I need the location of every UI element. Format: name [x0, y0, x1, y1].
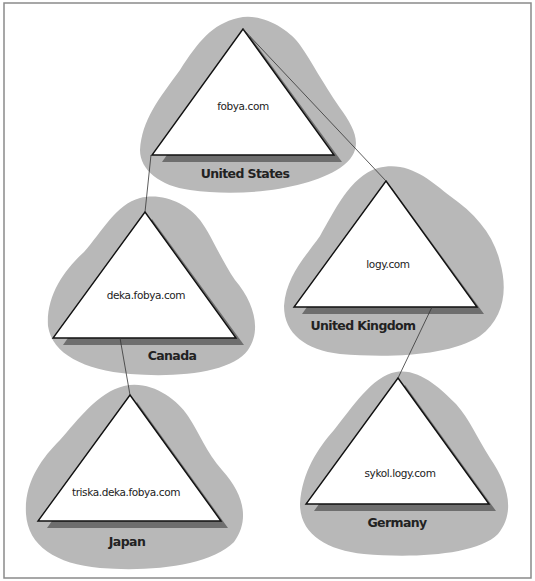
country-label: Japan [108, 534, 145, 549]
country-label: Germany [367, 515, 427, 530]
domain-label: deka.fobya.com [107, 289, 186, 301]
domain-label: fobya.com [217, 100, 269, 112]
domain-label: logy.com [366, 258, 409, 270]
domain-label: sykol.logy.com [365, 467, 436, 479]
country-label: Canada [148, 348, 197, 363]
diagram-canvas: fobya.com United States deka.fobya.com C… [0, 0, 535, 581]
country-label: United Kingdom [310, 318, 416, 333]
country-label: United States [201, 166, 290, 181]
domain-label: triska.deka.fobya.com [72, 486, 180, 498]
